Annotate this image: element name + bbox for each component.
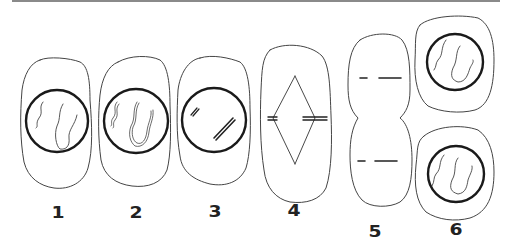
stage-2-cell xyxy=(99,56,171,186)
stage-1-cell xyxy=(21,58,92,188)
stage-3-cell xyxy=(177,56,250,184)
stage-label-1: 1 xyxy=(51,204,64,222)
stage-6-daughter-cell-top xyxy=(415,16,494,112)
nucleus-icon xyxy=(182,88,246,152)
nucleus-icon xyxy=(104,89,168,153)
stage-label-3: 3 xyxy=(208,203,221,221)
stage-4-cell xyxy=(260,45,331,202)
nucleus-icon xyxy=(26,90,88,152)
stage-label-2: 2 xyxy=(129,204,142,222)
stage-label-4: 4 xyxy=(287,202,300,220)
stage-label-5: 5 xyxy=(368,223,381,241)
stage-6-daughter-cell-bottom xyxy=(415,127,494,220)
stage-5-cell xyxy=(348,34,412,206)
cell-diagram xyxy=(0,0,510,250)
stage-label-6: 6 xyxy=(449,221,462,239)
